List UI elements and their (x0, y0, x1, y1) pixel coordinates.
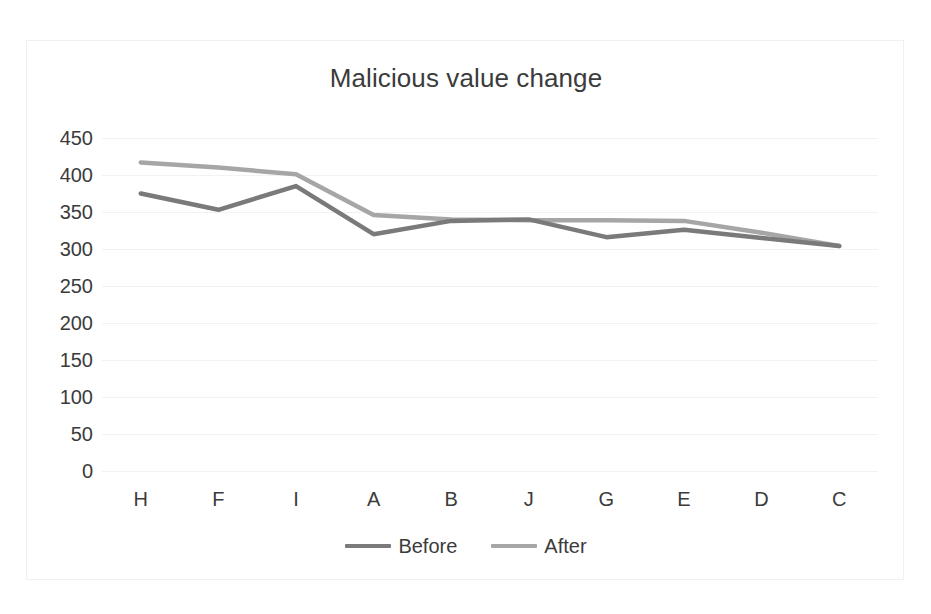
x-axis-tick-label: I (266, 489, 326, 509)
legend-label: Before (398, 536, 457, 556)
y-axis-tick-label: 250 (35, 276, 93, 296)
legend-item-before[interactable]: Before (345, 536, 457, 556)
x-axis-tick-label: B (421, 489, 481, 509)
series-line-before (141, 186, 839, 246)
legend-swatch-icon (345, 544, 391, 548)
legend-swatch-icon (491, 544, 537, 548)
chart-title: Malicious value change (27, 63, 905, 94)
y-axis-tick-label: 200 (35, 313, 93, 333)
y-axis-tick-label: 350 (35, 202, 93, 222)
plot-area (102, 138, 878, 471)
x-axis-tick-label: H (111, 489, 171, 509)
chart-container: Malicious value change 45040035030025020… (26, 40, 904, 580)
y-axis-tick-label: 450 (35, 128, 93, 148)
y-axis-tick-label: 400 (35, 165, 93, 185)
x-axis-tick-label: A (344, 489, 404, 509)
y-axis-tick-label: 150 (35, 350, 93, 370)
legend-item-after[interactable]: After (491, 536, 586, 556)
y-axis-tick-label: 300 (35, 239, 93, 259)
x-axis-tick-label: E (654, 489, 714, 509)
legend-label: After (544, 536, 586, 556)
gridline (102, 471, 878, 472)
x-axis-tick-label: F (188, 489, 248, 509)
series-lines (102, 138, 878, 471)
y-axis-tick-label: 100 (35, 387, 93, 407)
y-axis-tick-label: 50 (35, 424, 93, 444)
chart-legend: BeforeAfter (27, 536, 905, 556)
y-axis-tick-label: 0 (35, 461, 93, 481)
x-axis-tick-label: C (809, 489, 869, 509)
x-axis-tick-label: J (499, 489, 559, 509)
x-axis-tick-label: G (576, 489, 636, 509)
x-axis-tick-label: D (732, 489, 792, 509)
